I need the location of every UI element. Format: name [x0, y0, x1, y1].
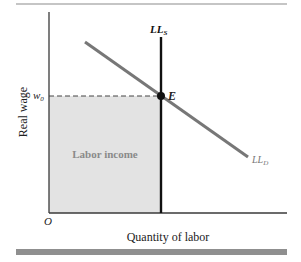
labor-income-label: Labor income — [72, 148, 138, 160]
supply-curve-label: LLS — [149, 23, 167, 37]
bottom-rule — [16, 249, 287, 255]
equilibrium-label: E — [167, 89, 176, 103]
origin-label: O — [44, 215, 52, 227]
wage-tick-label: w0 — [33, 89, 44, 103]
x-axis-label: Quantity of labor — [127, 230, 210, 244]
labor-market-diagram: Labor income E LLS LLD w0 Real wage O Qu… — [0, 0, 301, 262]
demand-curve-label: LLD — [251, 154, 268, 167]
y-axis-label: Real wage — [16, 87, 30, 137]
equilibrium-point — [157, 92, 165, 100]
